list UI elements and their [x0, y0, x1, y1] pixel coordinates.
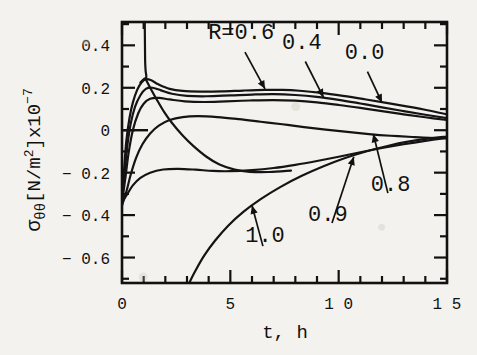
svg-text:σθθ[N/m2]x10−7: σθθ[N/m2]x10−7 — [21, 88, 49, 231]
annotation-label-0.4: 0.4 — [282, 31, 322, 56]
figure-container: σθθ[N/m2]x10−7 t, h 0.40.20− 0.2− 0.4− 0… — [0, 0, 477, 355]
annotation-arrowhead — [348, 157, 355, 166]
y-axis-tick-labels: 0.40.20− 0.2− 0.4− 0.6 — [62, 38, 110, 268]
y-tick-label: − 0.6 — [62, 251, 110, 269]
y-axis-label: σθθ[N/m2]x10−7 — [21, 88, 49, 231]
y-tick-label: − 0.4 — [62, 208, 110, 226]
curve-R-vertical-asymptote — [140, 22, 146, 82]
y-axis-unit-exponent: 2 — [22, 149, 37, 157]
y-axis-scale-exponent: −7 — [21, 88, 36, 104]
x-tick-label: 1 0 — [324, 296, 353, 314]
annotation-label-1.0: 1.0 — [245, 224, 285, 249]
annotation-label-0.8: 0.8 — [371, 173, 411, 198]
stress-vs-time-chart: σθθ[N/m2]x10−7 t, h 0.40.20− 0.2− 0.4− 0… — [0, 0, 477, 355]
y-tick-label: 0.2 — [81, 81, 110, 99]
y-axis-unit-open: [N/m — [24, 157, 46, 203]
y-axis-theta-subscript: θθ — [33, 203, 49, 220]
y-axis-sigma: σ — [23, 220, 46, 232]
x-tick-label: 5 — [226, 296, 236, 314]
annotation-label-0.6: R=0.6 — [208, 21, 274, 46]
x-tick-label: 0 — [117, 296, 127, 314]
annotation-label-0.9: 0.9 — [308, 203, 348, 228]
y-tick-label: 0 — [100, 123, 110, 141]
x-axis-label: t, h — [262, 322, 308, 344]
y-tick-label: 0.4 — [81, 38, 110, 56]
x-axis-tick-labels: 051 01 5 — [117, 296, 461, 314]
x-tick-label: 1 5 — [433, 296, 462, 314]
annotation-label-0.0: 0.0 — [345, 41, 385, 66]
y-axis-unit-close: ]x10 — [24, 104, 46, 150]
y-tick-label: − 0.2 — [62, 166, 110, 184]
